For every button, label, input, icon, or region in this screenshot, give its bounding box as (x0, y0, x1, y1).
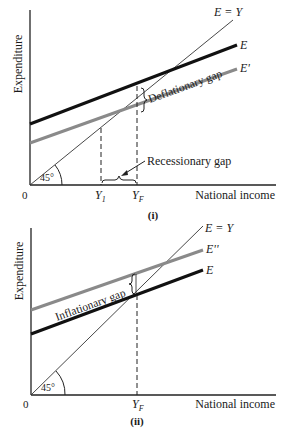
label-e-equals-y: E = Y (213, 5, 243, 19)
angle-arc (55, 165, 62, 185)
panel-caption: (ii) (130, 415, 144, 428)
deflationary-gap-brace (141, 88, 147, 112)
x-axis-label: National income (195, 188, 275, 202)
origin-label: 0 (22, 189, 28, 201)
recessionary-gap-label: Recessionary gap (147, 154, 231, 168)
deflationary-gap-label: Deflationary gap (147, 67, 225, 106)
y-axis-label: Expenditure (11, 35, 25, 94)
label-e-double-prime: E'' (205, 242, 219, 256)
tick-yf: YF (132, 397, 144, 413)
tick-y1: Y1 (95, 188, 106, 204)
label-e-prime: E' (239, 61, 250, 75)
angle-label: 45° (40, 172, 54, 183)
label-e: E (239, 38, 248, 52)
tick-yf: YF (132, 188, 144, 204)
panel-ii: Expenditure E = Y E'' E Inflationary gap… (12, 221, 276, 428)
label-e-equals-y: E = Y (204, 221, 234, 235)
origin-label: 0 (23, 398, 29, 410)
panel-caption: (i) (148, 209, 159, 222)
angle-label: 45° (41, 382, 55, 393)
panel-i: Expenditure E = Y E E' Deflationary gap … (11, 5, 276, 222)
figure-canvas: Expenditure E = Y E E' Deflationary gap … (0, 0, 290, 432)
recessionary-gap-brace (102, 176, 136, 183)
angle-arc (56, 371, 65, 395)
x-axis-label: National income (195, 397, 275, 411)
inflationary-gap-label: Inflationary gap (54, 286, 128, 324)
y-axis-label: Expenditure (12, 242, 26, 301)
label-e: E (205, 263, 214, 277)
arrowhead-icon (121, 170, 128, 176)
